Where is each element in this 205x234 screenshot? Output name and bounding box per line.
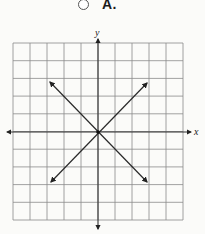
coordinate-graph: x y <box>0 0 205 234</box>
origin-point <box>96 130 100 134</box>
y-axis-label: y <box>94 27 100 38</box>
x-axis-label: x <box>193 126 199 137</box>
